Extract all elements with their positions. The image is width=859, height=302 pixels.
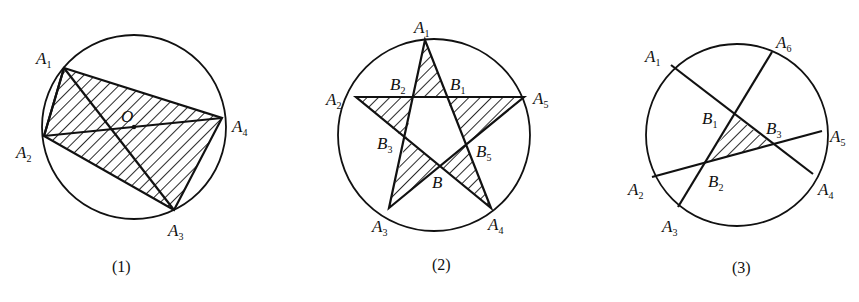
figure-1: A1 A2 A3 A4 O (1): [15, 35, 247, 276]
figure-3: A1 A2 A3 A4 A5 A6 B1 B2 B3 (3): [627, 33, 845, 277]
caption-1: (1): [112, 258, 131, 276]
label-A1: A1: [644, 47, 660, 68]
caption-2: (2): [432, 256, 451, 274]
label-A4: A4: [487, 215, 503, 236]
figure-2: A1 A2 A3 A4 A5 B1 B2 B3 B5 B (2): [325, 18, 548, 274]
label-A1: A1: [413, 18, 429, 39]
label-B2: B2: [708, 172, 723, 193]
label-A4: A4: [817, 180, 833, 201]
label-A2: A2: [15, 143, 31, 164]
label-B1: B1: [702, 109, 717, 130]
label-A2: A2: [627, 180, 643, 201]
label-A5: A5: [532, 89, 548, 110]
label-B3: B3: [766, 119, 781, 140]
label-B5: B5: [476, 142, 491, 163]
label-A3: A3: [371, 217, 387, 238]
geometry-figures: A1 A2 A3 A4 O (1) A1 A2 A3 A4 A5 B1 B2 B…: [0, 0, 859, 302]
label-B1: B1: [450, 75, 465, 96]
label-A6: A6: [775, 33, 791, 54]
chord-a6-a3: [678, 52, 772, 207]
label-A5: A5: [829, 127, 845, 148]
label-A3: A3: [661, 217, 677, 238]
label-A1: A1: [35, 49, 51, 70]
label-A3: A3: [167, 221, 183, 242]
caption-3: (3): [732, 259, 751, 277]
label-O: O: [121, 107, 133, 126]
label-B2: B2: [390, 75, 405, 96]
label-B3: B3: [377, 134, 392, 155]
label-B: B: [432, 173, 443, 192]
label-A4: A4: [231, 117, 247, 138]
label-A2: A2: [325, 90, 341, 111]
chord-a1-a4: [671, 65, 813, 174]
